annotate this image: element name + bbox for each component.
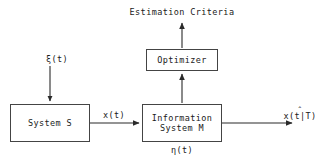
node-information-system-m[interactable]: Information System M — [142, 104, 222, 142]
hat-accent-icon: ˆ — [283, 107, 316, 116]
label-input-noise-xi: ξ(t) — [46, 55, 68, 64]
node-system-s-label: System S — [28, 118, 72, 128]
node-optimizer[interactable]: Optimizer — [146, 49, 218, 71]
label-measurement-noise-eta: η(t) — [171, 146, 193, 155]
node-information-system-m-label-line1: Information — [152, 113, 213, 123]
node-information-system-m-label-line2: System M — [160, 123, 204, 133]
node-system-s[interactable]: System S — [10, 104, 90, 142]
label-signal-xt: x(t) — [103, 111, 125, 120]
label-estimate-x-hat: ˆx(t|T) — [283, 112, 316, 121]
label-estimation-criteria: Estimation Criteria — [130, 8, 235, 17]
block-diagram: System S Information System M Optimizer … — [0, 0, 323, 164]
x-hat-glyph: ˆx(t|T) — [283, 112, 316, 121]
node-optimizer-label: Optimizer — [157, 55, 207, 65]
